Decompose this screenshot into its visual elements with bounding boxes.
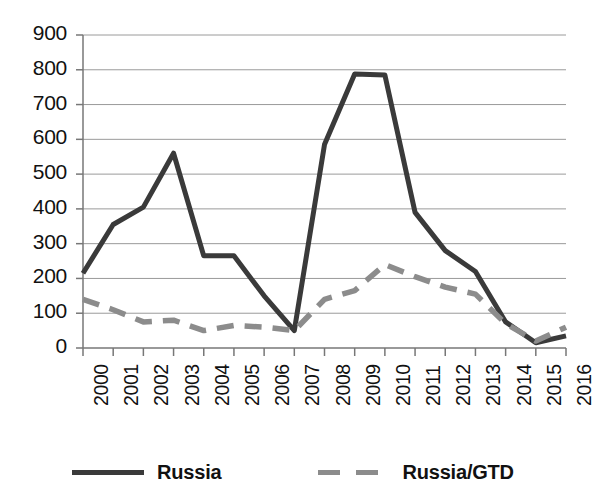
gridlines <box>83 35 566 313</box>
y-tick-label: 900 <box>7 21 67 45</box>
chart-legend: Russia Russia/GTD <box>0 448 586 496</box>
x-tick-label: 2003 <box>181 364 204 406</box>
x-tick-label: 2013 <box>482 364 505 406</box>
y-tick-label: 400 <box>7 195 67 219</box>
y-tick-label: 600 <box>7 125 67 149</box>
legend-label-russia-gtd: Russia/GTD <box>403 461 514 484</box>
y-tick-label: 100 <box>7 299 67 323</box>
y-tick-label: 700 <box>7 91 67 115</box>
y-tick-label: 500 <box>7 160 67 184</box>
legend-label-russia: Russia <box>157 461 221 484</box>
x-tick-label: 2008 <box>332 364 355 406</box>
x-tick-label: 2012 <box>452 364 475 406</box>
x-tick-label: 2002 <box>150 364 173 406</box>
x-tick-label: 2001 <box>120 364 143 406</box>
x-tick-label: 2010 <box>392 364 415 406</box>
x-tick-label: 2009 <box>362 364 385 406</box>
x-tick-label: 2005 <box>241 364 264 406</box>
x-tick-label: 2015 <box>543 364 566 406</box>
y-tick-label: 200 <box>7 264 67 288</box>
dashed-line-swatch <box>318 470 390 475</box>
y-tick-label: 800 <box>7 56 67 80</box>
y-tick-label: 300 <box>7 230 67 254</box>
x-axis-ticks <box>83 348 566 356</box>
legend-entry-russia: Russia <box>72 461 221 484</box>
x-tick-label: 2007 <box>301 364 324 406</box>
x-tick-label: 2016 <box>573 364 596 406</box>
x-tick-label: 2014 <box>513 364 536 406</box>
x-tick-label: 2000 <box>90 364 113 406</box>
y-axis-ticks <box>76 35 83 348</box>
x-tick-label: 2011 <box>422 366 445 406</box>
y-tick-label: 0 <box>7 334 67 358</box>
legend-entry-russia-gtd: Russia/GTD <box>318 461 514 484</box>
x-tick-label: 2004 <box>211 364 234 406</box>
x-tick-label: 2006 <box>271 364 294 406</box>
series-lines <box>83 74 566 343</box>
solid-line-swatch <box>72 470 144 475</box>
